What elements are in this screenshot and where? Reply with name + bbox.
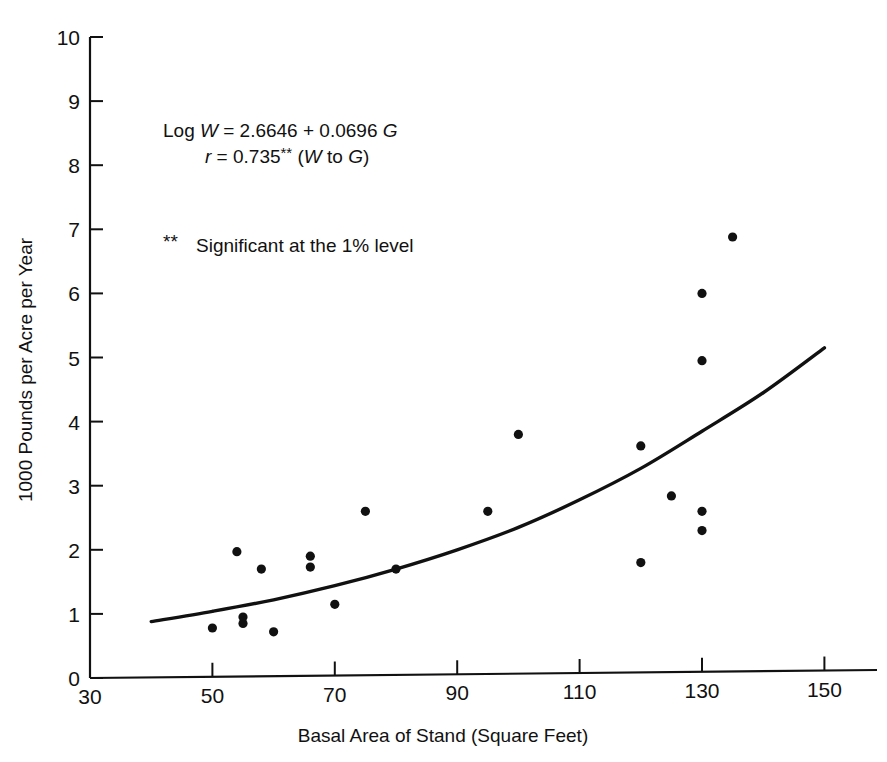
y-axis-title: 1000 Pounds per Acre per Year — [15, 237, 36, 502]
y-tick-label: 5 — [68, 347, 80, 370]
x-tick-label: 50 — [201, 684, 224, 707]
data-point — [269, 627, 278, 636]
chart-background — [0, 0, 887, 762]
data-point — [667, 491, 676, 500]
data-point — [697, 526, 706, 535]
y-tick-label: 4 — [68, 411, 80, 434]
data-point — [636, 441, 645, 450]
equation-prefix: Log — [163, 120, 200, 141]
x-tick-label: 90 — [446, 681, 469, 704]
correlation-to: to — [322, 146, 348, 167]
y-tick-label: 3 — [68, 475, 80, 498]
footnote-text: Significant at the 1% level — [196, 235, 414, 256]
data-point — [238, 619, 247, 628]
significance-stars-inline: ** — [281, 144, 293, 161]
x-tick-label: 110 — [563, 680, 596, 703]
data-point — [306, 552, 315, 561]
paren-close: ) — [363, 146, 369, 167]
data-point — [636, 558, 645, 567]
data-point — [697, 356, 706, 365]
correlation-value: = 0.735 — [211, 146, 280, 167]
data-point — [257, 564, 266, 573]
data-point — [306, 563, 315, 572]
x-tick-label: 30 — [78, 685, 101, 708]
data-point — [483, 507, 492, 516]
equation-line-1: Log W = 2.6646 + 0.0696 G — [163, 120, 398, 141]
y-tick-label: 7 — [68, 218, 80, 241]
data-point — [391, 564, 400, 573]
y-tick-label: 9 — [68, 90, 80, 113]
data-point — [697, 507, 706, 516]
data-point — [728, 232, 737, 241]
data-point — [232, 547, 241, 556]
scatter-chart-figure: 012345678910 30507090110130150 Log W = 2… — [0, 0, 887, 762]
y-tick-label: 8 — [68, 154, 80, 177]
x-tick-label: 70 — [323, 683, 346, 706]
y-tick-label: 2 — [68, 539, 80, 562]
y-tick-label: 6 — [68, 282, 80, 305]
footnote-stars: ** — [163, 231, 178, 252]
data-point — [208, 623, 217, 632]
correlation-g: G — [348, 146, 363, 167]
x-tick-label: 130 — [684, 679, 719, 702]
data-point — [361, 507, 370, 516]
x-axis-title: Basal Area of Stand (Square Feet) — [298, 725, 588, 746]
y-tick-label: 1 — [68, 603, 80, 626]
data-point — [697, 289, 706, 298]
data-point — [514, 430, 523, 439]
chart-svg: 012345678910 30507090110130150 Log W = 2… — [0, 0, 887, 762]
data-point — [330, 600, 339, 609]
x-tick-label: 150 — [807, 678, 842, 701]
equation-rest: = 2.6646 + 0.0696 — [218, 120, 383, 141]
y-tick-label: 10 — [57, 26, 80, 49]
equation-var-g: G — [383, 120, 398, 141]
paren-open: ( — [292, 146, 304, 167]
